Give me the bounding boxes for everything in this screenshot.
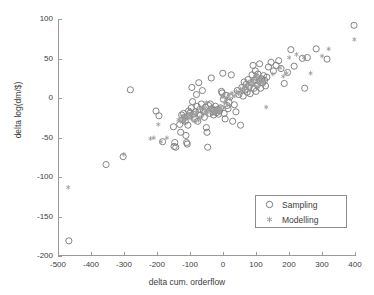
data-point-circle [183,132,189,138]
y-axis-label: delta log(dm/$) [13,30,23,190]
x-axis-label: delta cum. orderflow [0,277,374,287]
x-tick-mark [91,252,92,256]
data-point-circle [193,91,199,97]
y-tick-label: -150 [19,213,53,221]
y-tick-mark [58,138,62,139]
data-point-circle [231,102,237,108]
data-point-star [66,185,70,190]
x-tick-label: -100 [173,261,207,269]
data-point-circle [199,87,205,93]
data-point-circle [324,56,330,62]
x-tick-mark [190,252,191,256]
data-point-circle [66,238,72,244]
y-tick-mark [58,256,62,257]
data-point-circle [291,63,297,69]
data-point-circle [127,87,133,93]
data-point-star [264,105,268,110]
data-point-circle [237,122,243,128]
data-point-circle [208,75,214,81]
legend-entry-modelling: Modelling [256,212,348,227]
data-point-star [287,55,291,60]
data-point-star [156,122,160,127]
x-tick-label: -200 [140,261,174,269]
y-tick-mark [58,98,62,99]
x-tick-label: 100 [239,261,273,269]
data-point-circle [302,85,308,91]
x-tick-mark [157,252,158,256]
data-point-star [281,74,285,79]
x-tick-label: 300 [305,261,339,269]
data-point-circle [228,72,234,78]
data-point-circle [257,61,263,67]
data-point-star [320,54,324,59]
circle-marker-icon [256,197,282,212]
x-tick-label: -300 [107,261,141,269]
legend: Sampling Modelling [255,195,347,228]
data-point-circle [281,80,287,86]
x-tick-mark [223,252,224,256]
data-point-star [352,37,356,42]
x-tick-label: -400 [74,261,108,269]
data-point-circle [288,47,294,53]
data-point-circle [189,84,195,90]
data-point-star [165,135,169,140]
data-point-circle [351,22,357,28]
data-point-star [327,47,331,52]
x-tick-label: -500 [41,261,75,269]
y-tick-label: -200 [19,252,53,260]
y-tick-mark [58,217,62,218]
x-tick-mark [58,252,59,256]
y-tick-mark [58,59,62,60]
x-tick-mark [124,252,125,256]
data-point-circle [313,46,319,52]
y-tick-mark [58,19,62,20]
y-tick-label: 50 [19,55,53,63]
data-point-circle [233,109,239,115]
x-tick-mark [256,252,257,256]
legend-entry-sampling: Sampling [256,197,348,212]
data-point-circle [170,124,176,130]
data-point-circle [156,113,162,119]
y-tick-mark [58,177,62,178]
x-tick-label: 200 [272,261,306,269]
x-tick-mark [322,252,323,256]
y-tick-label: -50 [19,134,53,142]
x-tick-mark [289,252,290,256]
data-point-circle [220,70,226,76]
data-point-circle [205,144,211,150]
x-tick-mark [355,252,356,256]
data-point-circle [103,161,109,167]
legend-label-sampling: Sampling [282,200,317,210]
legend-label-modelling: Modelling [282,215,318,225]
x-tick-label: 400 [338,261,372,269]
data-point-star [294,52,298,57]
y-tick-label: 100 [19,15,53,23]
star-marker-icon [256,212,282,227]
data-point-star [309,71,313,76]
data-point-circle [276,58,282,64]
scatter-plot-figure: -200-150-100-50050100 -500-400-300-200-1… [0,0,374,295]
data-point-circle [196,80,202,86]
data-point-star [230,91,234,96]
y-tick-label: -100 [19,173,53,181]
y-tick-label: 0 [19,94,53,102]
data-point-circle [230,118,236,124]
x-tick-label: 0 [206,261,240,269]
